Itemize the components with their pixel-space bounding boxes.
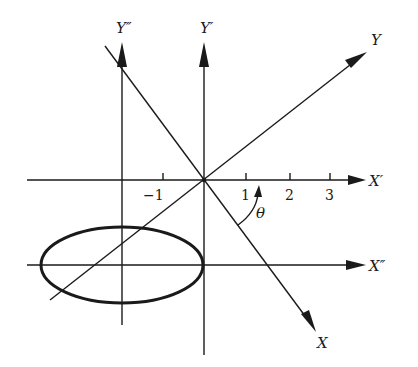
x-prime-axis [27,175,366,185]
y-prime-label: Y′ [200,19,214,37]
x-prime-label: X′ [368,172,384,190]
x-double-prime-label: X″ [368,257,386,275]
tick-label-3: 3 [325,187,334,203]
x-rotated-label: X [316,334,329,352]
x-double-prime-axis [27,260,366,270]
y-rotated-axis [50,52,367,300]
x-double-prime-arrow-icon [346,260,366,270]
y-rotated-label: Y [371,31,383,49]
theta-label: θ [256,204,265,222]
x-rotated-arrow-icon [301,310,316,332]
y-prime-arrow-icon [199,42,209,67]
tick-label-neg1: −1 [143,187,164,203]
tick-label-1: 1 [241,187,250,203]
origin-point [202,178,206,182]
y-double-prime-axis [117,42,127,325]
coordinate-diagram: −1 1 2 3 θ Y″ Y′ Y X′ X″ X [0,0,418,367]
theta-arrow-icon [254,185,262,197]
x-prime-ticks [163,173,330,180]
x-prime-arrow-icon [348,175,366,185]
y-double-prime-label: Y″ [116,19,132,37]
tick-label-2: 2 [285,187,294,203]
y-prime-axis [199,42,209,355]
